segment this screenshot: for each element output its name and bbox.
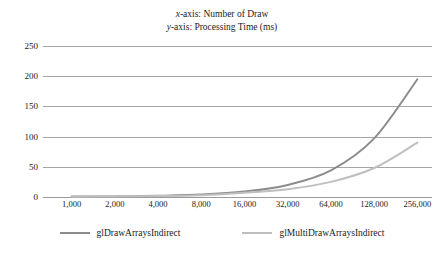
chart-figure: x-axis: Number of Draw y-axis: Processin… (0, 0, 444, 258)
legend-item[interactable]: glMultiDrawArraysIndirect (242, 228, 384, 238)
y-tick-label: 250 (25, 41, 39, 51)
x-tick-label: 128,000 (360, 199, 388, 209)
y-tick-label: 150 (25, 101, 39, 111)
legend-label: glMultiDrawArraysIndirect (279, 228, 384, 238)
y-tick-label: 200 (25, 71, 39, 81)
y-tick-label: 50 (29, 162, 38, 172)
series-line-glMultiDrawArraysIndirect (72, 143, 418, 197)
x-tick-label: 1,000 (62, 199, 81, 209)
series-lines (43, 46, 432, 197)
chart-title-line-y: y-axis: Processing Time (ms) (0, 21, 444, 34)
x-tick-label: 2,000 (105, 199, 124, 209)
y-tick-label: 0 (34, 192, 39, 202)
legend-swatch-icon (60, 232, 90, 235)
x-tick-label: 256,000 (404, 199, 432, 209)
y-axis-labels: 050100150200250 (0, 0, 38, 258)
chart-title-line-x: x-axis: Number of Draw (0, 8, 444, 21)
x-axis-labels: 1,0002,0004,0008,00016,00032,00064,00012… (43, 199, 432, 215)
plot-area (43, 46, 432, 197)
chart-legend: glDrawArraysIndirectglMultiDrawArraysInd… (0, 228, 444, 238)
x-tick-label: 4,000 (148, 199, 167, 209)
title-y-axis-text: -axis: Processing Time (ms) (171, 22, 277, 32)
legend-swatch-icon (242, 232, 272, 235)
x-tick-label: 16,000 (233, 199, 256, 209)
x-tick-label: 8,000 (192, 199, 211, 209)
series-line-glDrawArraysIndirect (72, 79, 418, 196)
x-tick-label: 64,000 (319, 199, 342, 209)
legend-label: glDrawArraysIndirect (97, 228, 181, 238)
x-tick-label: 32,000 (276, 199, 299, 209)
chart-title: x-axis: Number of Draw y-axis: Processin… (0, 8, 444, 34)
y-tick-label: 100 (25, 132, 39, 142)
title-x-axis-text: -axis: Number of Draw (180, 9, 268, 19)
legend-item[interactable]: glDrawArraysIndirect (60, 228, 181, 238)
